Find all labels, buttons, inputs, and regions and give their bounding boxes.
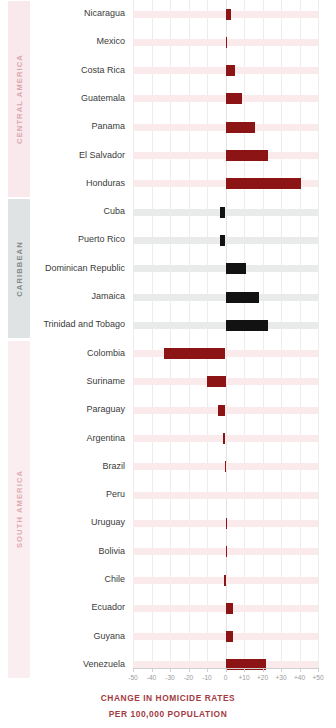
chart-caption: CHANGE IN HOMICIDE RATES PER 100,000 POP… bbox=[0, 690, 336, 722]
category-label: Uruguay bbox=[15, 517, 125, 527]
axis-tick-label: +30 bbox=[275, 674, 286, 681]
axis-tick-label: +50 bbox=[312, 674, 323, 681]
bar bbox=[226, 150, 269, 161]
row-stripe bbox=[133, 209, 318, 216]
category-label: Brazil bbox=[15, 461, 125, 471]
bar bbox=[226, 603, 233, 614]
bar bbox=[226, 9, 232, 20]
axis-tick-label: -20 bbox=[184, 674, 194, 681]
x-axis: -50-40-30-20-100+10+20+30+40+50 bbox=[133, 668, 318, 688]
category-label: Suriname bbox=[15, 376, 125, 386]
axis-tick bbox=[189, 668, 190, 672]
category-label: Mexico bbox=[15, 36, 125, 46]
axis-tick-label: -40 bbox=[147, 674, 157, 681]
category-label: Costa Rica bbox=[15, 65, 125, 75]
category-label: Dominican Republic bbox=[15, 263, 125, 273]
bar bbox=[226, 320, 269, 331]
bar bbox=[226, 178, 302, 189]
category-label: Colombia bbox=[15, 348, 125, 358]
bar bbox=[226, 65, 235, 76]
axis-tick bbox=[300, 668, 301, 672]
bar bbox=[225, 461, 227, 472]
row-stripe bbox=[133, 492, 318, 499]
axis-tick-label: +20 bbox=[257, 674, 268, 681]
category-label: Trinidad and Tobago bbox=[15, 319, 125, 329]
category-labels-column: NicaraguaMexicoCosta RicaGuatemalaPanama… bbox=[13, 0, 125, 668]
bar bbox=[223, 433, 226, 444]
category-label: Argentina bbox=[15, 433, 125, 443]
chart-title: CHANGE IN HOMICIDE RATES bbox=[0, 690, 336, 706]
bar bbox=[207, 376, 226, 387]
bar bbox=[226, 518, 228, 529]
bar bbox=[226, 263, 246, 274]
bar bbox=[226, 292, 259, 303]
category-label: Honduras bbox=[15, 178, 125, 188]
bar bbox=[218, 405, 225, 416]
bar bbox=[220, 235, 226, 246]
bar bbox=[164, 348, 225, 359]
bar bbox=[226, 546, 228, 557]
axis-tick bbox=[281, 668, 282, 672]
bar bbox=[224, 575, 226, 586]
axis-tick-label: -10 bbox=[202, 674, 212, 681]
category-label: Guatemala bbox=[15, 93, 125, 103]
category-label: Chile bbox=[15, 574, 125, 584]
homicide-rate-change-chart: CENTRAL AMERICA CARIBBEAN SOUTH AMERICA … bbox=[0, 0, 336, 728]
row-stripe bbox=[133, 350, 318, 357]
axis-tick bbox=[226, 668, 227, 672]
row-stripe bbox=[133, 407, 318, 414]
category-label: Bolivia bbox=[15, 546, 125, 556]
row-stripe bbox=[133, 435, 318, 442]
category-label: Jamaica bbox=[15, 291, 125, 301]
category-label: Ecuador bbox=[15, 602, 125, 612]
axis-tick-label: +40 bbox=[294, 674, 305, 681]
chart-subtitle: PER 100,000 POPULATION bbox=[0, 706, 336, 722]
bar bbox=[226, 37, 228, 48]
axis-tick-label: +10 bbox=[238, 674, 249, 681]
bar bbox=[220, 207, 226, 218]
row-stripe bbox=[133, 378, 318, 385]
category-label: Venezuela bbox=[15, 659, 125, 669]
category-label: Panama bbox=[15, 121, 125, 131]
bar bbox=[226, 122, 256, 133]
axis-tick bbox=[318, 668, 319, 672]
category-label: Paraguay bbox=[15, 404, 125, 414]
axis-tick bbox=[207, 668, 208, 672]
axis-tick bbox=[133, 668, 134, 672]
gridline bbox=[318, 0, 319, 668]
category-label: El Salvador bbox=[15, 150, 125, 160]
axis-tick-label: -30 bbox=[165, 674, 175, 681]
axis-tick bbox=[263, 668, 264, 672]
category-label: Peru bbox=[15, 489, 125, 499]
category-label: Guyana bbox=[15, 631, 125, 641]
axis-tick-label: 0 bbox=[224, 674, 228, 681]
category-label: Cuba bbox=[15, 206, 125, 216]
row-stripe bbox=[133, 237, 318, 244]
axis-tick bbox=[152, 668, 153, 672]
axis-tick-label: -50 bbox=[128, 674, 138, 681]
category-label: Nicaragua bbox=[15, 8, 125, 18]
bar bbox=[226, 631, 233, 642]
axis-tick bbox=[244, 668, 245, 672]
bar bbox=[226, 93, 243, 104]
category-label: Puerto Rico bbox=[15, 234, 125, 244]
axis-tick bbox=[170, 668, 171, 672]
